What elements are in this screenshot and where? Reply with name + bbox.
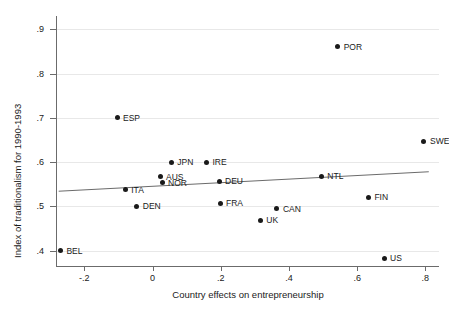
data-point-label: BEL (66, 247, 82, 256)
data-point-label: FIN (374, 193, 388, 202)
y-tick-label: .8 (22, 70, 44, 79)
data-point (217, 179, 222, 184)
data-point-label: ITA (131, 186, 144, 195)
data-point-label: UK (266, 216, 278, 225)
data-point-label: NTL (327, 172, 343, 181)
data-point (258, 218, 263, 223)
y-tick-mark (50, 162, 56, 163)
y-tick-label: .6 (22, 158, 44, 167)
data-point (115, 115, 120, 120)
y-tick-mark (50, 251, 56, 252)
plot-area: BELESPITADENAUSNORJPNIREDEUFRAUKCANNTLPO… (57, 16, 439, 266)
gridline (57, 74, 439, 75)
data-point (160, 180, 165, 185)
y-tick-label: .5 (22, 202, 44, 211)
data-point-label: US (390, 254, 402, 263)
regression-line (57, 16, 439, 266)
data-point (204, 160, 209, 165)
data-point (218, 201, 223, 206)
gridline (57, 162, 439, 163)
x-tick-mark (357, 266, 358, 271)
x-tick-mark (289, 266, 290, 271)
y-axis-title: Index of traditionalism for 1990-1993 (12, 104, 23, 258)
gridline (57, 29, 439, 30)
data-point-label: CAN (283, 205, 301, 214)
x-tick-label: .6 (342, 274, 372, 283)
data-point (319, 174, 324, 179)
data-point (158, 174, 163, 179)
data-point (274, 206, 279, 211)
x-tick-label: .8 (410, 274, 440, 283)
y-axis-line (56, 16, 57, 266)
x-tick-label: .4 (274, 274, 304, 283)
x-axis-line (56, 266, 439, 267)
data-point-label: NOR (168, 179, 187, 188)
x-tick-label: .2 (206, 274, 236, 283)
gridline (57, 206, 439, 207)
data-point-label: IRE (212, 158, 226, 167)
data-point (335, 44, 340, 49)
y-tick-mark (50, 29, 56, 30)
x-tick-label: 0 (138, 274, 168, 283)
data-point-label: FRA (226, 199, 243, 208)
x-axis-title: Country effects on entrepreneurship (57, 289, 439, 300)
data-point-label: DEU (225, 177, 243, 186)
data-point (366, 195, 371, 200)
y-tick-label: .7 (22, 114, 44, 123)
data-point-label: ESP (123, 114, 140, 123)
x-tick-mark (221, 266, 222, 271)
y-tick-mark (50, 206, 56, 207)
data-point-label: POR (344, 43, 362, 52)
y-tick-mark (50, 118, 56, 119)
x-tick-mark (153, 266, 154, 271)
x-tick-mark (84, 266, 85, 271)
data-point (134, 204, 139, 209)
y-tick-label: .9 (22, 25, 44, 34)
data-point-label: JPN (177, 158, 193, 167)
data-point (58, 248, 63, 253)
data-point-label: SWE (430, 137, 449, 146)
gridline (57, 251, 439, 252)
data-point (382, 256, 387, 261)
data-point (123, 187, 128, 192)
data-point-label: DEN (143, 202, 161, 211)
data-point (421, 139, 426, 144)
x-tick-mark (425, 266, 426, 271)
y-tick-label: .4 (22, 247, 44, 256)
x-tick-label: -.2 (69, 274, 99, 283)
y-tick-mark (50, 74, 56, 75)
data-point (169, 160, 174, 165)
